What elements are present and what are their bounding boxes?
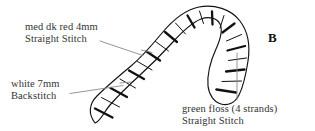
- annotation-red-line1: med dk red 4mm: [25, 21, 98, 32]
- segment-divider: [212, 12, 213, 25]
- segment-divider: [222, 81, 242, 82]
- annotation-green-line1: green floss (4 strands): [182, 103, 277, 114]
- annotation-white-thread: white 7mm Backstitch: [11, 78, 59, 101]
- annotation-white-line2: Backstitch: [11, 90, 59, 102]
- annotation-green-line2: Straight Stitch: [182, 115, 277, 127]
- leader-line-red: [100, 41, 143, 56]
- annotation-green-thread: green floss (4 strands) Straight Stitch: [182, 103, 277, 126]
- figure-label-letter: B: [268, 30, 277, 46]
- annotation-red-line2: Straight Stitch: [25, 33, 98, 45]
- annotation-red-thread: med dk red 4mm Straight Stitch: [25, 21, 98, 44]
- figure-panel: med dk red 4mm Straight Stitch white 7mm…: [0, 0, 315, 131]
- annotation-white-line1: white 7mm: [11, 78, 59, 89]
